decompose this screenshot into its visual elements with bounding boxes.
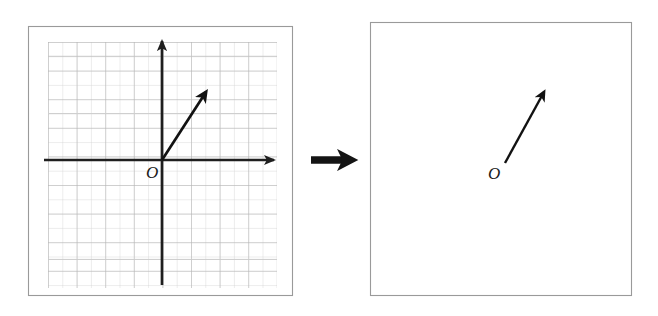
left-panel[interactable] bbox=[29, 27, 293, 296]
vector-transformation-figure bbox=[0, 0, 658, 316]
origin-label-left: O bbox=[146, 164, 158, 181]
right-panel[interactable] bbox=[371, 23, 632, 296]
origin-label-right: O bbox=[488, 165, 500, 182]
right-panel-frame bbox=[371, 23, 632, 296]
